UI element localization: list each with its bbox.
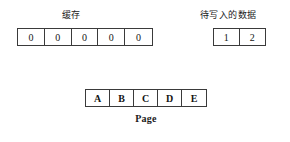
pending-data-cell: 2 [240,29,265,45]
page-cell: B [110,90,134,106]
cache-cell-row: 0 0 0 0 0 [17,28,153,46]
page-cell: D [158,90,182,106]
cache-cell: 0 [125,29,152,45]
pending-data-cell: 1 [214,29,240,45]
cache-cell: 0 [72,29,99,45]
cache-cell: 0 [98,29,125,45]
page-cell-row: A B C D E [85,89,207,107]
cache-label: 缓存 [62,10,81,21]
page-cell: A [86,90,110,106]
page-cell: C [134,90,158,106]
cache-cell: 0 [18,29,45,45]
page-cell: E [182,90,206,106]
pending-data-cell-row: 1 2 [213,28,266,46]
cache-cell: 0 [45,29,72,45]
page-label: Page [135,113,157,124]
diagram-canvas: 缓存 0 0 0 0 0 待写入的数据 1 2 A B C D E Page [0,0,290,142]
pending-data-label: 待写入的数据 [200,10,256,21]
